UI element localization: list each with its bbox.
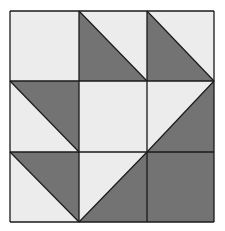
quilt-cell-r2-c2 <box>147 152 214 222</box>
quilt-block <box>0 0 225 231</box>
quilt-cell-r0-c0 <box>10 11 79 81</box>
quilt-cell-r1-c1 <box>79 81 147 152</box>
